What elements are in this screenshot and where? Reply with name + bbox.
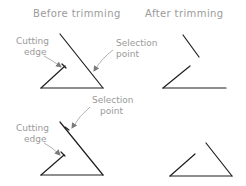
bottom-before-cutting-edge-line	[41, 155, 64, 175]
trim-diagram: Before trimming After trimming Cutting e…	[0, 0, 246, 186]
bottom-cutting-edge-label-line1: Cutting	[16, 123, 49, 133]
bottom-after-figure	[170, 143, 232, 176]
top-selection-point-label-line1: Selection	[116, 38, 157, 48]
bottom-selection-point-label-line2: point	[100, 106, 123, 116]
bottom-after-cutting-edge-line	[170, 154, 195, 176]
top-selection-point-leader-arrow	[94, 50, 113, 71]
bottom-selection-point-label-line1: Selection	[92, 95, 133, 105]
bottom-selection-point-leader-arrow	[72, 107, 90, 128]
bottom-before-diagonal-line	[60, 122, 103, 175]
top-cutting-edge-label-line1: Cutting	[16, 36, 49, 46]
top-cutting-edge-label-line2: edge	[24, 47, 47, 57]
bottom-after-right-segment	[206, 143, 232, 176]
top-before-cutting-edge-line	[41, 66, 65, 88]
before-trimming-title: Before trimming	[33, 8, 121, 19]
top-before-figure: Cutting edge Selection point	[16, 34, 157, 88]
top-before-diagonal-line	[60, 34, 103, 88]
top-cutting-edge-leader-arrow	[44, 56, 61, 67]
bottom-cutting-edge-label-line2: edge	[24, 134, 47, 144]
top-after-figure	[163, 35, 226, 88]
bottom-before-figure: Cutting edge Selection point	[16, 95, 133, 175]
top-selection-point-label-line2: point	[116, 49, 139, 59]
top-after-cutting-edge-line	[163, 66, 190, 88]
top-after-upper-segment	[183, 35, 199, 57]
bottom-cutting-edge-leader-arrow	[44, 143, 60, 155]
after-trimming-title: After trimming	[145, 8, 224, 19]
